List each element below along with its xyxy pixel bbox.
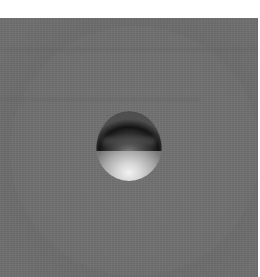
microscopy-image xyxy=(0,18,258,277)
top-white-strip xyxy=(0,0,260,18)
faint-scan-line xyxy=(0,98,200,101)
particle-midband xyxy=(102,137,156,145)
faint-scan-line xyxy=(0,48,258,51)
spherical-particle xyxy=(96,111,162,181)
